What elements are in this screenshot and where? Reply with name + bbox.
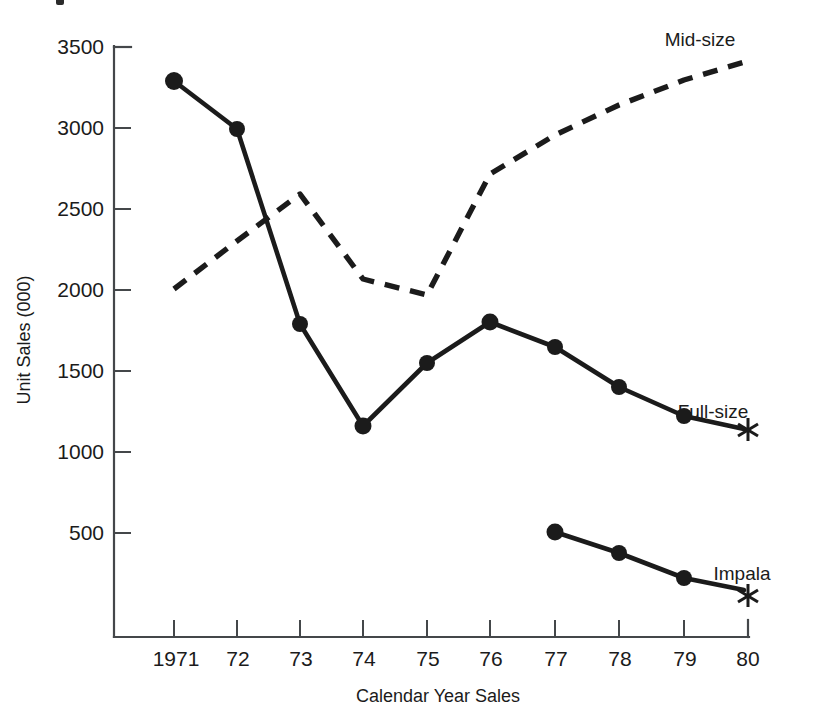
y-axis-tick-labels: 3500 3000 2500 2000 1500 1000 500 xyxy=(57,35,104,544)
y-axis-title: Unit Sales (000) xyxy=(14,275,34,404)
y-tick-label-3000: 3000 xyxy=(57,116,104,139)
chart-figure: 3500 3000 2500 2000 1500 1000 500 1971 7… xyxy=(0,0,814,717)
x-tick-label-78: 78 xyxy=(608,647,631,670)
full-size-marker-1971 xyxy=(165,72,183,90)
series-label-impala: Impala xyxy=(713,563,770,584)
impala-marker-78 xyxy=(611,545,627,561)
y-tick-label-500: 500 xyxy=(69,521,104,544)
x-axis-tick-labels: 1971 72 73 74 75 76 77 78 79 80 xyxy=(153,647,760,670)
x-tick-label-79: 79 xyxy=(673,647,696,670)
full-size-line xyxy=(174,81,744,429)
y-tick-label-2500: 2500 xyxy=(57,197,104,220)
y-tick-label-2000: 2000 xyxy=(57,278,104,301)
x-axis-ticks xyxy=(174,620,684,637)
y-axis-ticks xyxy=(114,47,131,533)
y-tick-label-1000: 1000 xyxy=(57,440,104,463)
x-tick-label-1971: 1971 xyxy=(153,647,200,670)
x-tick-label-77: 77 xyxy=(544,647,567,670)
series-label-mid-size: Mid-size xyxy=(665,29,736,50)
x-tick-label-73: 73 xyxy=(289,647,312,670)
y-tick-label-3500: 3500 xyxy=(57,35,104,58)
series-label-full-size: Full-size xyxy=(678,401,749,422)
series-full-size xyxy=(165,72,758,441)
full-size-marker-73 xyxy=(292,316,308,332)
full-size-marker-77 xyxy=(547,339,563,355)
full-size-marker-78 xyxy=(611,379,627,395)
mid-size-line xyxy=(174,61,748,295)
impala-marker-77 xyxy=(547,524,564,541)
x-axis-title: Calendar Year Sales xyxy=(356,686,520,706)
full-size-marker-75 xyxy=(419,355,435,371)
x-tick-label-80: 80 xyxy=(736,647,759,670)
x-tick-label-76: 76 xyxy=(479,647,502,670)
x-tick-label-75: 75 xyxy=(416,647,439,670)
y-tick-label-1500: 1500 xyxy=(57,359,104,382)
impala-marker-79 xyxy=(676,570,692,586)
full-size-marker-72 xyxy=(229,121,245,137)
x-tick-label-74: 74 xyxy=(352,647,376,670)
series-mid-size xyxy=(174,61,748,295)
line-chart-canvas: 3500 3000 2500 2000 1500 1000 500 1971 7… xyxy=(0,0,814,717)
axes-group xyxy=(114,46,749,637)
full-size-marker-74 xyxy=(355,418,372,435)
x-tick-label-72: 72 xyxy=(226,647,249,670)
full-size-marker-76 xyxy=(482,314,499,331)
